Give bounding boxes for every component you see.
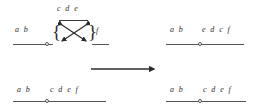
baseline xyxy=(166,44,244,45)
baseline xyxy=(166,101,246,102)
node-dot xyxy=(198,99,202,103)
left-sequence-label: a b xyxy=(15,26,29,34)
right-sequence-label: f xyxy=(96,27,100,35)
baseline xyxy=(13,101,106,102)
rightward-transformation-arrow-icon xyxy=(90,62,162,76)
node-dot xyxy=(45,42,49,46)
right-sequence-label: c d e f xyxy=(50,86,79,94)
node-dot xyxy=(198,42,202,46)
right-sequence-label: e d c f xyxy=(202,26,231,34)
node-dot xyxy=(45,99,49,103)
baseline-right-segment xyxy=(92,44,109,45)
left-sequence-label: a b xyxy=(17,86,31,94)
permutation-transformation-figure: c d e a b { } f a b e xyxy=(0,0,256,107)
right-sequence-label: c d e f xyxy=(203,86,232,94)
crossing-group-label: c d e xyxy=(57,5,79,13)
left-sequence-label: a b xyxy=(170,86,184,94)
double-headed-x-crossing-arrows-icon xyxy=(58,21,90,45)
left-sequence-label: a b xyxy=(170,26,184,34)
